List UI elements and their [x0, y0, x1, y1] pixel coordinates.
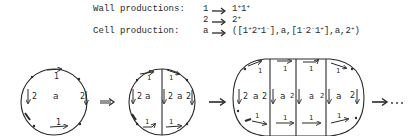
cell-label-a: a [177, 91, 183, 101]
wall-label-1: 1 [283, 114, 287, 122]
wall-label-1: 1 [147, 74, 151, 82]
wall-label-1: 1 [56, 118, 61, 127]
stage-1-cell: 1 2 a 2 1 [21, 69, 87, 135]
wall-label-2: 2 [320, 92, 324, 100]
wall-label-1: 1 [337, 112, 341, 120]
wall-label-1: 1 [336, 67, 340, 75]
wall-label-2: 2 [262, 92, 267, 101]
cell-label-a: a [145, 91, 151, 101]
wall-label-2: 2 [350, 91, 355, 100]
wall-label-1: 1 [309, 65, 313, 73]
wall-label-2: 2 [137, 92, 142, 101]
continuation-arrow-icon [372, 99, 387, 106]
wall-label-1: 1 [54, 72, 59, 81]
wall-label-1: 1 [145, 118, 149, 126]
cell-label-a: a [253, 91, 259, 101]
ellipsis [391, 102, 403, 104]
wall-label-1: 1 [255, 112, 259, 120]
derivation-arrow-icon [100, 99, 114, 106]
wall-label-2: 2 [168, 92, 173, 101]
wall-label-2: 2 [80, 92, 85, 101]
wall-label-1: 1 [258, 67, 262, 75]
cell-label-a: a [280, 91, 286, 101]
wall-label-2: 2 [32, 92, 37, 101]
wall-label-1: 1 [283, 65, 287, 73]
wall-label-1: 1 [309, 114, 313, 122]
cell-label-a: a [336, 91, 342, 101]
stage-3-cells: 1 2 a 2 1 1 a 2 1 1 a 2 1 1 a 2 1 [233, 59, 364, 136]
wall-label-1: 1 [169, 74, 173, 82]
wall-label-2: 2 [243, 92, 248, 101]
cell-label-a: a [53, 91, 59, 101]
wall-label-1: 1 [169, 118, 173, 126]
wall-label-2: 2 [186, 92, 191, 101]
wall-label-2: 2 [290, 92, 294, 100]
cell-division-diagram: 1 2 a 2 1 1 2 a 1 1 [0, 0, 417, 136]
stage-2-cells: 1 2 a 1 1 2 a 2 1 [129, 69, 195, 135]
cell-label-a: a [309, 92, 314, 101]
derivation-arrow-icon [209, 99, 225, 106]
